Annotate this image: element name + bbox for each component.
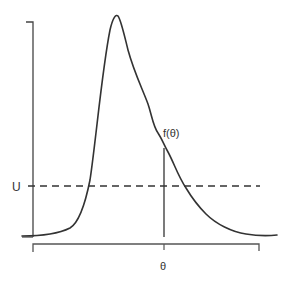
y-axis [26, 22, 33, 237]
f-theta-label: f(θ) [163, 127, 180, 139]
theta-label: θ [160, 260, 166, 272]
density-curve [22, 15, 277, 236]
u-label: U [12, 180, 21, 194]
density-diagram: U f(θ) θ [0, 0, 290, 282]
x-axis-bracket [33, 244, 259, 252]
